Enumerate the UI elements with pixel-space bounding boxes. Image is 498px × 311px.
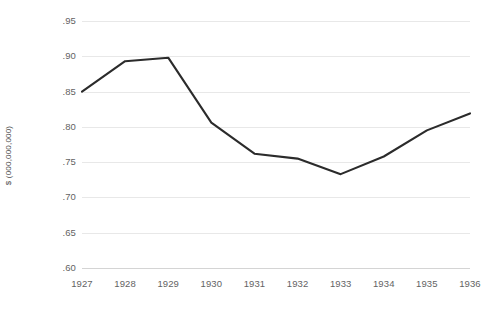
x-tick-label: 1933 [319,278,363,290]
plot-area [82,21,470,268]
y-tick-label: .95 [50,16,76,26]
x-tick-label: 1927 [60,278,104,290]
x-tick-label: 1930 [189,278,233,290]
x-axis-tick-labels: 1927192819291930193119321933193419351936 [82,278,470,292]
y-tick-label: .80 [50,122,76,132]
x-tick-label: 1934 [362,278,406,290]
x-tick-label: 1928 [103,278,147,290]
y-tick-label: .85 [50,87,76,97]
x-tick-label: 1935 [405,278,449,290]
y-axis-tick-labels: .60.65.70.75.80.85.90.95 [50,21,76,268]
series-polyline [82,58,470,174]
y-tick-label: .90 [50,51,76,61]
line-chart: $ (000,000,000) .60.65.70.75.80.85.90.95… [0,0,498,311]
x-tick-label: 1931 [232,278,276,290]
x-tick-label: 1932 [276,278,320,290]
y-tick-label: .75 [50,157,76,167]
x-tick-label: 1936 [448,278,492,290]
y-axis-title: $ (000,000,000) [0,0,16,311]
series-line [82,21,470,268]
gridline [82,268,470,269]
x-tick-label: 1929 [146,278,190,290]
y-tick-label: .70 [50,192,76,202]
y-tick-label: .65 [50,228,76,238]
y-tick-label: .60 [50,263,76,273]
